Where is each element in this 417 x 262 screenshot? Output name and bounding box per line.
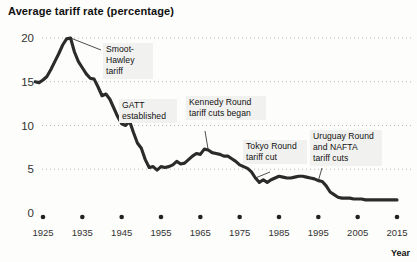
x-axis-tick-label: 1975 (229, 227, 250, 238)
x-axis-tick-dot (316, 215, 321, 220)
x-axis-tick-dot (159, 215, 164, 220)
y-axis-tick-label: 20 (21, 32, 34, 44)
annotation-uruguay-nafta: Uruguay Round and NAFTA tariff cuts (310, 130, 382, 166)
x-axis-tick-dot (237, 215, 242, 220)
x-axis-tick-label: 1985 (268, 227, 289, 238)
x-axis-title: Year (391, 248, 411, 258)
x-axis-tick-label: 1925 (32, 227, 53, 238)
x-axis-tick-label: 1995 (308, 227, 329, 238)
leader-line-kennedy-round (205, 131, 208, 150)
x-axis-tick-dot (41, 215, 46, 220)
y-axis-tick-labels: 05101520 (21, 32, 34, 219)
x-axis-tick-label: 1935 (72, 227, 93, 238)
x-axis-tick-label: 1955 (150, 227, 171, 238)
x-axis-tick-dot (277, 215, 282, 220)
x-axis-tick-label: 1965 (190, 227, 211, 238)
leader-line-smoot-hawley (71, 38, 101, 50)
x-axis-tick-label: 2015 (386, 227, 407, 238)
y-axis-tick-label: 10 (21, 120, 34, 132)
tariff-rate-chart: Average tariff rate (percentage) 0510152… (0, 0, 417, 262)
x-axis-tick-label: 1945 (111, 227, 132, 238)
x-axis-tick-dot (80, 215, 85, 220)
x-axis-tick-marks (41, 215, 400, 220)
x-axis-tick-dot (119, 215, 124, 220)
x-axis-tick-label: 2005 (347, 227, 368, 238)
y-axis-tick-label: 0 (28, 207, 34, 219)
x-axis-tick-dot (355, 215, 360, 220)
annotation-gatt: GATT established (119, 99, 177, 123)
y-axis-tick-label: 15 (21, 76, 34, 88)
annotation-smoot-hawley: Smoot- Hawley tariff (103, 43, 153, 79)
x-axis-tick-labels: 1925193519451955196519751985199520052015 (32, 227, 407, 238)
x-axis-tick-dot (198, 215, 203, 220)
leader-line-tokyo-round (255, 172, 270, 178)
y-axis-tick-label: 5 (28, 163, 34, 175)
gridlines (42, 38, 414, 213)
x-axis-tick-dot (395, 215, 400, 220)
annotation-tokyo-round: Tokyo Round tariff cut (243, 140, 307, 164)
leader-line-uruguay-nafta (318, 168, 322, 181)
annotation-kennedy-round: Kennedy Round tariff cuts began (186, 96, 266, 120)
